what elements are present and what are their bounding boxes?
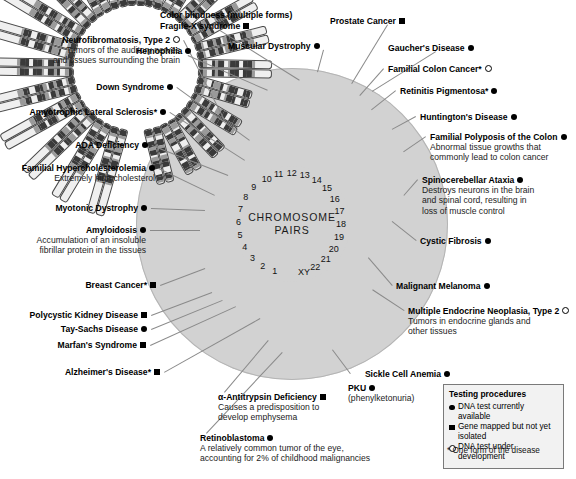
chromosome-number-16: 16 xyxy=(330,194,340,204)
callout-labels_top-1: Fragile-X syndrome xyxy=(160,21,249,31)
callout-title: Cystic Fibrosis xyxy=(420,236,491,246)
callout-labels_left-7: Breast Cancer* xyxy=(85,280,156,290)
callout-desc-line: develop emphysema xyxy=(218,412,326,422)
callout-labels_left-8: Polycystic Kidney Disease xyxy=(30,310,147,320)
callout-title: Neurofibromatosis, Type 2 xyxy=(53,35,180,45)
callout-labels_right-1: Retinitis Pigmentosa* xyxy=(400,86,497,96)
callout-title: Gaucher's Disease xyxy=(388,43,474,53)
test-status-dot-icon xyxy=(141,326,147,332)
callout-title: Retinitis Pigmentosa* xyxy=(400,86,497,96)
callout-labels_right-3: Familial Polyposis of the ColonAbnormal … xyxy=(430,132,567,163)
test-status-dot-icon xyxy=(468,45,474,51)
callout-desc-line: Accumulation of an insoluble xyxy=(37,235,146,245)
callout-labels_left-3: ADA Deficiency xyxy=(75,140,148,150)
callout-title: Malignant Melanoma xyxy=(396,281,490,291)
callout-title: Alzheimer's Disease* xyxy=(65,367,160,377)
callout-labels_right-6: Malignant Melanoma xyxy=(396,281,490,291)
callout-labels_right-0: Familial Colon Cancer* xyxy=(388,64,492,74)
callout-desc-line: other tissues xyxy=(408,326,569,336)
callout-desc-line: and spinal cord, resulting in xyxy=(422,195,534,205)
callout-labels_top-2: Hemophilia xyxy=(136,46,191,56)
callout-title: Hemophilia xyxy=(136,46,191,56)
legend-symbol-dot-icon xyxy=(449,405,455,411)
callout-desc-line: Tumors in endocrine glands and xyxy=(408,316,569,326)
chromosome-number-11: 11 xyxy=(274,169,283,179)
test-status-dot-icon xyxy=(149,165,155,171)
callout-labels_left-9: Tay-Sachs Disease xyxy=(61,324,147,334)
legend-symbol-sq-icon xyxy=(449,425,455,431)
callout-labels_right-5: Cystic Fibrosis xyxy=(420,236,491,246)
callout-title: Muscular Dystrophy xyxy=(228,41,320,51)
callout-title: PKU xyxy=(348,383,414,393)
callout-title: Spinocerebellar Ataxia xyxy=(422,175,534,185)
chromosome-number-9: 9 xyxy=(251,182,256,192)
test-status-dot-icon xyxy=(314,43,320,49)
legend-title: Testing procedures xyxy=(449,389,558,399)
callout-title: Familial Colon Cancer* xyxy=(388,64,492,74)
callout-title: Retinoblastoma xyxy=(200,433,370,443)
callout-title: Amyotrophic Lateral Sclerosis* xyxy=(29,107,166,117)
chromosome-number-21: 21 xyxy=(321,254,331,264)
test-status-dot-icon xyxy=(141,205,147,211)
chromosome-number-19: 19 xyxy=(334,232,344,242)
test-status-dot-icon xyxy=(167,84,173,90)
legend-item-label: Gene mapped but not yet isolated xyxy=(458,422,550,441)
callout-labels_right-7: Multiple Endocrine Neoplasia, Type 2Tumo… xyxy=(408,306,569,337)
test-status-sq-icon xyxy=(141,312,147,318)
chromosome-number-17: 17 xyxy=(335,206,345,216)
chromosome-number-22: 22 xyxy=(310,262,320,272)
chromosome-number-15: 15 xyxy=(322,183,332,193)
callout-title: Familial Polyposis of the Colon xyxy=(430,132,567,142)
chromosome-number-18: 18 xyxy=(336,219,346,229)
callout-labels_left-1: Down Syndrome xyxy=(96,82,173,92)
callout-labels_top-3: Muscular Dystrophy xyxy=(228,41,320,51)
callout-desc-line: A relatively common tumor of the eye, xyxy=(200,443,370,453)
callout-labels_right-4: Spinocerebellar AtaxiaDestroys neurons i… xyxy=(422,175,534,216)
chromosome-number-8: 8 xyxy=(243,192,248,202)
callout-desc-line: (phenylketonuria) xyxy=(348,393,414,403)
callout-labels_left-5: Myotonic Dystrophy xyxy=(55,203,147,213)
callout-title: Multiple Endocrine Neoplasia, Type 2 xyxy=(408,306,569,316)
callout-title: Tay-Sachs Disease xyxy=(61,324,147,334)
callout-labels_bottom-0: α-Antitrypsin DeficiencyCauses a predisp… xyxy=(218,392,326,423)
callout-labels_right-2: Huntington's Disease xyxy=(420,112,517,122)
chromosome-number-5: 5 xyxy=(237,230,242,240)
test-status-dot-icon xyxy=(267,435,273,441)
chromosome-number-13: 13 xyxy=(300,170,310,180)
test-status-open-icon xyxy=(562,307,569,314)
test-status-sq-icon xyxy=(320,394,326,400)
legend-item: DNA test currently available xyxy=(449,402,558,421)
callout-title: Marfan's Syndrome xyxy=(58,340,146,350)
chromosome-number-6: 6 xyxy=(236,217,241,227)
callout-desc-line: accounting for 2% of childhood malignanc… xyxy=(200,453,370,463)
chromosome-number-4: 4 xyxy=(242,242,247,252)
callout-title: Familial Hypercholesterolemia xyxy=(22,163,155,173)
chromosome-number-XY: XY xyxy=(298,267,310,277)
test-status-sq-icon xyxy=(150,282,156,288)
callout-labels_top-4: Prostate Cancer xyxy=(330,16,405,26)
callout-title: Amyloidosis xyxy=(37,225,146,235)
test-status-dot-icon xyxy=(491,88,497,94)
chromosome-wheel xyxy=(136,68,448,380)
callout-title: Myotonic Dystrophy xyxy=(55,203,147,213)
callout-desc-line: Abnormal tissue growths that xyxy=(430,142,567,152)
chromosome-number-2: 2 xyxy=(260,261,265,271)
callout-labels_left-4: Familial HypercholesterolemiaExtremely h… xyxy=(22,163,155,183)
chromosome-number-12: 12 xyxy=(287,168,297,178)
test-status-dot-icon xyxy=(160,109,166,115)
test-status-sq-icon xyxy=(140,342,146,348)
test-status-dot-icon xyxy=(517,177,523,183)
test-status-dot-icon xyxy=(444,371,450,377)
callout-labels_left-10: Marfan's Syndrome xyxy=(58,340,146,350)
callout-title: Huntington's Disease xyxy=(420,112,517,122)
chromosome-12 xyxy=(127,0,138,6)
callout-desc-line: Extremely high cholesterol xyxy=(22,173,155,183)
callout-labels_left-11: Alzheimer's Disease* xyxy=(65,367,160,377)
callout-labels_top-0: Color blindness (multiple forms) xyxy=(160,10,292,20)
legend-item-label: DNA test currently available xyxy=(458,402,524,421)
callout-labels_bottom-3: Sickle Cell Anemia xyxy=(365,369,450,379)
chromosome-6 xyxy=(0,66,74,77)
legend-footnote: * One form of the disease xyxy=(447,446,540,455)
callout-title: Color blindness (multiple forms) xyxy=(160,10,292,20)
callout-desc-line: fibrillar protein in the tissues xyxy=(37,245,146,255)
